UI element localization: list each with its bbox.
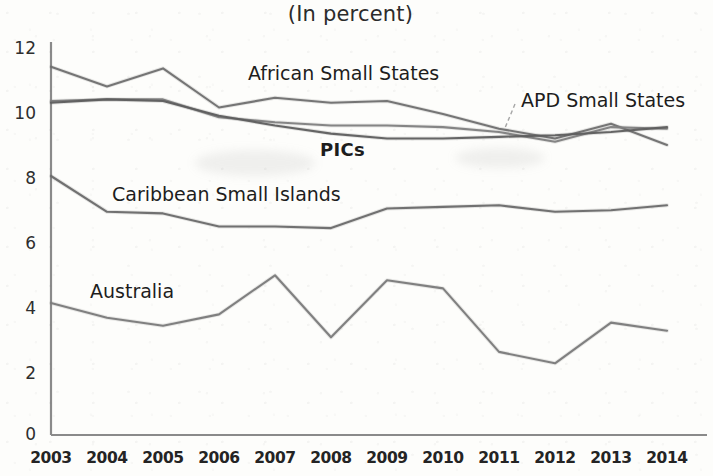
series-lines <box>51 67 667 364</box>
line-chart: (In percent) 12 10 8 6 4 2 0 2003 2004 2… <box>0 0 713 476</box>
australia-label: Australia <box>90 280 174 302</box>
pics-label: PICs <box>320 139 365 160</box>
african-small-states-label: African Small States <box>248 62 439 84</box>
apd-leader-line <box>505 104 515 128</box>
apd-small-states-label: APD Small States <box>521 89 685 111</box>
caribbean-small-islands-label: Caribbean Small Islands <box>112 183 341 205</box>
